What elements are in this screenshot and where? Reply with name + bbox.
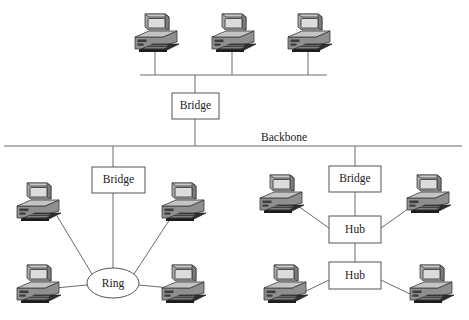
link-hub-lower-to-pc-right <box>381 280 410 294</box>
computer-pc-hub-lower-right <box>410 265 454 303</box>
computer-pc-ring-upper-left <box>17 183 61 221</box>
bridge-top-label: Bridge <box>180 99 211 112</box>
computer-pc-hub-lower-left <box>264 265 308 303</box>
backbone-label: Backbone <box>261 131 307 143</box>
link-ring-to-pc-ring-upper-right <box>134 216 172 274</box>
link-ring-to-pc-ring-lower-left <box>55 285 87 288</box>
computer-pc-hub-upper-right <box>407 175 451 213</box>
computer-pc-top-left <box>135 14 179 52</box>
node-ring: Ring <box>87 268 139 298</box>
bridge-right-label: Bridge <box>339 172 370 185</box>
node-bridge-top: Bridge <box>172 93 219 119</box>
diagram-canvas: Bridge Bridge Bridge Hub Hub Ring Backbo… <box>0 0 469 320</box>
node-bridge-right: Bridge <box>329 166 381 192</box>
link-ring-to-pc-ring-upper-left <box>57 216 92 274</box>
computer-pc-ring-upper-right <box>162 183 206 221</box>
network-diagram: Bridge Bridge Bridge Hub Hub Ring Backbo… <box>0 0 469 320</box>
computer-pc-hub-upper-left <box>260 175 304 213</box>
node-bridge-left: Bridge <box>92 167 145 193</box>
node-hub-lower: Hub <box>329 262 381 289</box>
link-hub-upper-to-pc-left <box>298 206 329 228</box>
bridge-left-label: Bridge <box>103 173 134 186</box>
computer-pc-top-right <box>288 14 332 52</box>
ring-label: Ring <box>102 277 125 290</box>
hub-upper-label: Hub <box>345 223 365 235</box>
computer-pc-ring-lower-left <box>17 265 61 303</box>
computer-pc-ring-lower-right <box>162 265 206 303</box>
node-hub-upper: Hub <box>329 216 381 243</box>
computer-pc-top-center <box>212 14 256 52</box>
hub-lower-label: Hub <box>345 269 365 281</box>
